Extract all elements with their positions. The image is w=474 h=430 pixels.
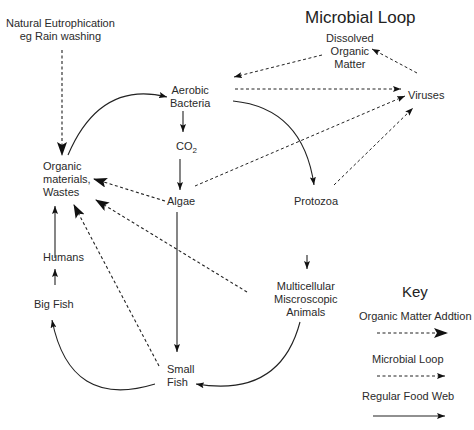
node-small-fish: Small Fish [167, 363, 195, 389]
edge-smallfish-to-organic [74, 205, 159, 366]
node-dissolved-organic-matter: Dissolved Organic Matter [326, 32, 374, 71]
node-label-line: Animals [274, 306, 338, 319]
node-viruses: Viruses [408, 89, 444, 102]
node-label-line: Natural Eutrophication [6, 17, 115, 30]
key-label-microbial-loop: Microbial Loop [372, 353, 444, 366]
node-label-line: Multicellular [274, 280, 338, 293]
edge-dom-to-bacteria [234, 55, 322, 77]
microbial-loop-diagram: Microbial Loop Natural Eutrophication eg… [0, 0, 474, 430]
microbial-loop-edges [195, 49, 417, 186]
node-label-line: materials, [43, 173, 91, 186]
edge-algae-to-organic [94, 179, 165, 201]
co2-subscript: 2 [193, 146, 197, 155]
key-label-food-web: Regular Food Web [362, 390, 454, 403]
node-label-line: Dissolved [326, 32, 374, 45]
node-co2: CO2 [176, 140, 197, 157]
node-label-line: Fish [167, 376, 195, 389]
node-label-line: Organic [43, 160, 91, 173]
edge-bacteria-to-protozoa [233, 101, 314, 185]
edge-smallfish-to-bigfish [52, 320, 155, 390]
co2-main: CO [176, 140, 193, 152]
edge-protozoa-to-viruses [334, 108, 413, 185]
node-organic-materials: Organic materials, Wastes [43, 160, 91, 199]
organic-matter-addition-edges [62, 50, 247, 366]
node-algae: Algae [167, 195, 195, 208]
node-multicellular-animals: Multicellular Miscroscopic Animals [274, 280, 338, 319]
node-label-line: eg Rain washing [6, 30, 115, 43]
node-natural-eutrophication: Natural Eutrophication eg Rain washing [6, 17, 115, 43]
edge-multicellular-to-smallfish [196, 322, 300, 386]
node-label-line: Miscroscopic [274, 293, 338, 306]
node-label-line: Matter [326, 58, 374, 71]
edge-organic-to-bacteria [68, 94, 167, 155]
node-label-line: Wastes [43, 186, 91, 199]
node-big-fish: Big Fish [34, 298, 74, 311]
food-web-edges [52, 94, 314, 390]
edge-viruses-to-dom [372, 49, 417, 73]
node-label-line: Aerobic [170, 84, 210, 97]
node-label-line: Small [167, 363, 195, 376]
node-humans: Humans [43, 251, 84, 264]
edge-multicellular-to-organic [96, 200, 247, 292]
node-protozoa: Protozoa [294, 195, 338, 208]
diagram-title: Microbial Loop [305, 8, 416, 28]
node-label-line: Organic [326, 45, 374, 58]
node-label-line: Bacteria [170, 97, 210, 110]
key-arrows [373, 333, 447, 416]
node-aerobic-bacteria: Aerobic Bacteria [170, 84, 210, 110]
key-title: Key [402, 283, 428, 300]
key-label-organic-matter: Organic Matter Addtion [359, 310, 472, 323]
